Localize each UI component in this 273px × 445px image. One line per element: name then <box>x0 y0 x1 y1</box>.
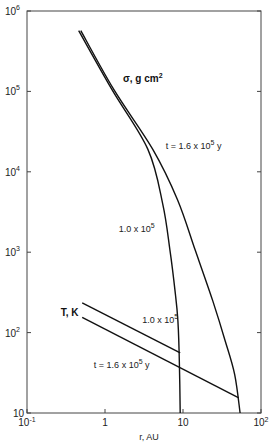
temperature-t16-label: t = 1.6 x 105 y <box>94 358 150 370</box>
sigma-label: σ, g cm2 <box>123 72 163 84</box>
temperature-t10-label: 1.0 x 105 <box>142 313 178 325</box>
sigma-t16-label: t = 1.6 x 105 y <box>166 139 222 151</box>
series-line-1 <box>79 31 181 413</box>
y-tick-label: 106 <box>5 4 20 17</box>
temperature-label: T, K <box>61 307 80 318</box>
y-tick-label: 10 <box>13 408 25 419</box>
series-line-4 <box>82 317 239 398</box>
x-tick-label: 1 <box>102 417 108 428</box>
series-line-2 <box>81 31 240 413</box>
series-line-3 <box>82 303 180 353</box>
sigma-t10-label: 1.0 x 105 <box>119 222 155 234</box>
x-tick-label: 102 <box>253 416 268 428</box>
annotations-group: σ, g cm2t = 1.6 x 105 y1.0 x 105T, K1.0 … <box>61 72 222 370</box>
x-tick-label: 10 <box>177 417 189 428</box>
chart: 10-111010210610510410310210 σ, g cm2t = … <box>0 0 273 445</box>
y-tick-label: 105 <box>5 84 20 97</box>
y-tick-label: 103 <box>5 245 20 258</box>
y-tick-label: 102 <box>5 326 20 339</box>
series-group <box>79 31 240 413</box>
y-tick-label: 104 <box>5 165 20 178</box>
x-axis-label: r, AU <box>139 432 159 442</box>
plot-frame <box>27 11 261 413</box>
